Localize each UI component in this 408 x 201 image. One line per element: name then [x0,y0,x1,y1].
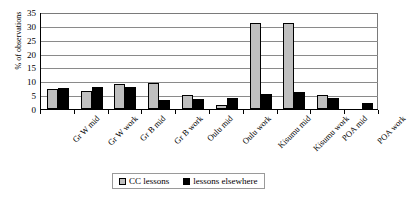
bar-group [210,13,244,109]
y-axis-tick-label: 25 [27,36,36,45]
bar [317,95,328,109]
x-axis-tick-label: Gr B work [173,114,205,146]
bar-group [311,13,345,109]
y-axis-tick-label: 35 [27,9,36,18]
bar-group [142,13,176,109]
x-axis-tick-label: Oulu mid [206,114,235,143]
legend-label: lessons elsewhere [193,176,257,186]
bar [58,88,69,109]
legend-entry: lessons elsewhere [183,176,257,186]
legend-swatch [183,178,190,185]
chart-legend: CC lessonslessons elsewhere [112,173,265,189]
bar-group [244,13,278,109]
y-axis-tick-label: 15 [27,64,36,73]
legend-label: CC lessons [129,176,169,186]
bar-group [278,13,312,109]
bar [47,89,58,109]
bar [81,91,92,109]
x-axis-tick-labels: Gr W midGr W workGr B midGr B workOulu m… [40,114,378,162]
bar [114,84,125,109]
x-axis-tick-label: Gr W mid [71,114,102,145]
bar [328,98,339,109]
bar [216,105,227,109]
y-axis-tick-label: 0 [32,106,37,115]
x-axis-tick-label: Gr B mid [138,114,167,143]
bar [250,23,261,109]
bar [294,92,305,109]
bar [283,23,294,109]
bar-group [41,13,75,109]
y-axis-tick-labels: 05101520253035 [16,8,36,113]
bar [125,87,136,109]
bar [362,103,373,109]
bar [261,94,272,109]
bar [182,95,193,109]
x-axis-tick-label: Gr W work [106,114,140,148]
bars-layer [41,13,378,109]
y-axis-tick-label: 20 [27,50,36,59]
x-axis-tick-label: Kisumu mid [276,114,312,150]
y-axis-tick-label: 30 [27,22,36,31]
bar [159,100,170,109]
x-axis-tick [378,110,379,114]
bar-group [109,13,143,109]
bar-group [176,13,210,109]
bar-group [345,13,379,109]
legend-swatch [119,178,126,185]
y-axis-tick-label: 10 [27,78,36,87]
y-axis-tick-label: 5 [32,92,37,101]
x-axis-tick-label: Oulu work [241,114,273,146]
bar [148,83,159,109]
bar-group [75,13,109,109]
bar [92,87,103,109]
legend-entry: CC lessons [119,176,169,186]
plot-area [40,13,378,110]
bar [193,99,204,109]
x-axis-tick-label: POA work [376,114,408,146]
bar [227,98,238,109]
